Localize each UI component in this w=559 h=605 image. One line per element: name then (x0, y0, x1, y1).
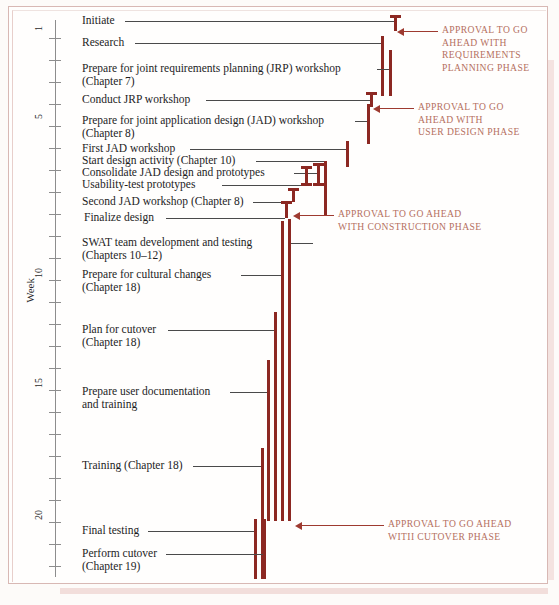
task-label-line: Prepare user documentation (82, 385, 210, 398)
task-leader-line (148, 531, 254, 532)
task-label: SWAT team development and testing(Chapte… (82, 236, 252, 261)
task-label-line: Usability-test prototypes (82, 178, 195, 191)
task-leader-line (230, 392, 267, 393)
task-leader-line (256, 161, 324, 162)
week-axis-tick (49, 324, 61, 325)
task-leader-line (193, 466, 261, 467)
task-label: Usability-test prototypes (82, 178, 195, 191)
task-label: Prepare for joint application design (JA… (82, 114, 324, 139)
annotation-arrow-line (302, 525, 384, 526)
task-label: Prepare for cultural changes(Chapter 18) (82, 268, 211, 293)
task-label-line: Prepare for cultural changes (82, 268, 211, 281)
week-axis-tick (49, 522, 61, 523)
task-label-line: (Chapter 19) (82, 560, 157, 573)
gantt-bar[interactable] (267, 360, 270, 521)
gantt-bar-cap-top (390, 15, 401, 18)
week-axis-tick (49, 126, 61, 127)
task-label-line: Perform cutover (82, 547, 157, 560)
task-label-line: (Chapter 8) (82, 127, 324, 140)
task-label: Conduct JRP workshop (82, 93, 190, 106)
milestone-annotation-text: APPROVAL TO GO AHEAD WITII CUTOVER PHASE (388, 518, 512, 543)
week-axis-tick (49, 82, 61, 83)
gantt-bar[interactable] (367, 104, 370, 144)
gantt-bar[interactable] (346, 141, 349, 167)
task-label-line: (Chapter 18) (82, 281, 211, 294)
gantt-bar[interactable] (274, 312, 277, 521)
task-leader-line (166, 554, 263, 555)
gantt-bar[interactable] (281, 221, 284, 521)
task-label-line: (Chapter 7) (82, 75, 341, 88)
task-label-line: Conduct JRP workshop (82, 93, 190, 106)
week-axis-tick (49, 280, 61, 281)
gantt-bar[interactable] (263, 519, 266, 579)
gantt-bar[interactable] (324, 161, 327, 216)
week-axis-tick (49, 192, 61, 193)
task-label-line: Second JAD workshop (Chapter 8) (82, 195, 244, 208)
task-label-line: and training (82, 398, 210, 411)
task-label-line: Start design activity (Chapter 10) (82, 154, 235, 167)
task-leader-line (206, 100, 370, 101)
task-label: First JAD workshop (82, 142, 175, 155)
annotation-arrow-head-icon (397, 28, 404, 36)
task-label-line: Initiate (82, 14, 115, 27)
task-label: Consolidate JAD design and prototypes (82, 166, 265, 179)
gantt-bar[interactable] (254, 519, 257, 579)
annotation-arrow-line (404, 31, 438, 32)
week-axis-tick (49, 302, 61, 303)
task-label: Prepare user documentationand training (82, 385, 210, 410)
gantt-bar[interactable] (381, 36, 384, 96)
task-label: Prepare for joint requirements planning … (82, 62, 341, 87)
task-leader-line (168, 330, 274, 331)
task-leader-line (355, 121, 367, 122)
task-leader-line (290, 243, 313, 244)
task-label-line: Finalize design (84, 211, 154, 224)
week-axis-tick (49, 214, 61, 215)
page-edge-right (548, 60, 554, 580)
week-axis-tick-label: 15 (34, 378, 44, 388)
task-label-line: Prepare for joint requirements planning … (82, 62, 341, 75)
week-axis-tick (49, 412, 61, 413)
task-label: Initiate (82, 14, 115, 27)
page-edge-bottom (60, 588, 548, 594)
annotation-arrow-line (300, 215, 334, 216)
milestone-annotation-text: APPROVAL TO GO AHEAD WITH USER DESIGN PH… (418, 101, 520, 139)
week-axis-tick (49, 566, 61, 567)
task-leader-line (241, 275, 281, 276)
gantt-bar-cap-top (301, 166, 312, 169)
task-leader-line (166, 218, 285, 219)
task-label-line: Consolidate JAD design and prototypes (82, 166, 265, 179)
gantt-bar-cap-bottom (301, 183, 312, 186)
gantt-bar-cap-top (366, 92, 377, 95)
task-label: Perform cutover(Chapter 19) (82, 547, 157, 572)
task-label-line: Prepare for joint application design (JA… (82, 114, 324, 127)
week-axis-tick (49, 368, 61, 369)
gantt-bar[interactable] (389, 50, 392, 96)
week-axis-tick (49, 390, 61, 391)
week-axis-tick (49, 148, 61, 149)
gantt-bar-cap-top (288, 188, 299, 191)
task-label: Training (Chapter 18) (82, 459, 183, 472)
week-axis-tick (49, 346, 61, 347)
task-label-line: (Chapters 10–12) (82, 249, 252, 262)
week-axis-tick (49, 456, 61, 457)
task-label: Plan for cutover(Chapter 18) (82, 323, 156, 348)
task-label-line: SWAT team development and testing (82, 236, 252, 249)
week-axis-tick-label: 5 (34, 114, 44, 119)
week-axis-tick (49, 38, 61, 39)
week-axis-tick (49, 544, 61, 545)
task-label: Research (82, 36, 124, 49)
gantt-bar[interactable] (288, 219, 291, 521)
gantt-bar-cap-top (313, 163, 324, 166)
gantt-chart-page: 15101520 Week InitiateResearchPrepare fo… (0, 0, 559, 605)
week-axis-tick (49, 104, 61, 105)
milestone-annotation-text: APPROVAL TO GO AHEAD WITH CONSTRUCTION P… (338, 208, 482, 233)
week-axis-tick (49, 478, 61, 479)
task-label: Final testing (82, 524, 139, 537)
week-axis-tick-label: 10 (34, 268, 44, 278)
gantt-bar-cap-bottom (313, 183, 324, 186)
annotation-arrow-head-icon (295, 522, 302, 530)
week-axis-tick-label: 1 (34, 26, 44, 31)
week-axis-tick (49, 434, 61, 435)
task-label: Start design activity (Chapter 10) (82, 154, 235, 167)
task-label-line: First JAD workshop (82, 142, 175, 155)
